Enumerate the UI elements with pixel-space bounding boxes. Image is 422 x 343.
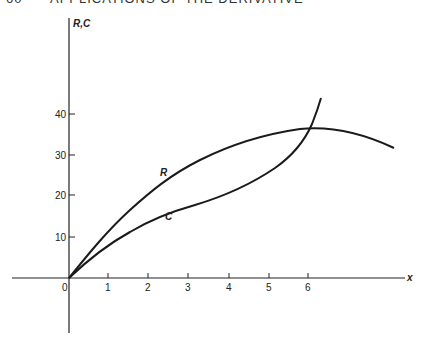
x-ticks bbox=[108, 273, 308, 278]
x-tick-label: 2 bbox=[145, 282, 151, 293]
x-tick-label: 4 bbox=[226, 282, 232, 293]
y-tick-label: 40 bbox=[55, 109, 67, 120]
x-tick-labels: 0 1 2 3 4 5 6 bbox=[62, 282, 311, 293]
y-tick-label: 10 bbox=[55, 232, 67, 243]
chart: 0 1 2 3 4 5 6 10 20 30 40 R,C x R C bbox=[0, 0, 422, 343]
x-tick-label: 3 bbox=[185, 282, 191, 293]
y-tick-label: 30 bbox=[55, 150, 67, 161]
curve-label-r: R bbox=[160, 167, 168, 178]
curve-r bbox=[69, 128, 394, 278]
y-tick-labels: 10 20 30 40 bbox=[55, 109, 67, 243]
y-ticks bbox=[69, 114, 75, 237]
y-axis-label: R,C bbox=[73, 18, 91, 29]
origin-label: 0 bbox=[62, 282, 68, 293]
curve-c bbox=[69, 98, 321, 278]
x-tick-label: 6 bbox=[305, 282, 311, 293]
x-tick-label: 1 bbox=[105, 282, 111, 293]
x-tick-label: 5 bbox=[266, 282, 272, 293]
x-axis-label: x bbox=[406, 272, 413, 283]
y-tick-label: 20 bbox=[55, 190, 67, 201]
curve-label-c: C bbox=[165, 211, 173, 222]
